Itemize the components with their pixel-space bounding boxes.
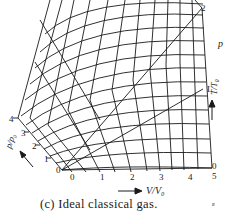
corner-label-bottom-left: 0 bbox=[56, 166, 61, 175]
v-tick-5: 5 bbox=[212, 172, 217, 181]
surface-grid bbox=[18, 0, 212, 172]
figure-caption: (c) Ideal classical gas. bbox=[40, 197, 158, 212]
temperature-axis-label: T/T₀ bbox=[209, 79, 219, 95]
v-tick-4: 4 bbox=[188, 173, 193, 182]
margin-mark: ε bbox=[212, 200, 215, 209]
v-tick-2: 2 bbox=[130, 173, 135, 182]
p-tick-3: 3 bbox=[21, 129, 26, 138]
p-tick-1: 1 bbox=[44, 155, 49, 164]
v-tick-3: 3 bbox=[159, 173, 164, 182]
pvt-surface-diagram bbox=[0, 0, 228, 217]
margin-p-mark: p bbox=[218, 38, 223, 49]
corner-label-top-right: 2 bbox=[201, 4, 206, 13]
p-tick-4: 4 bbox=[9, 115, 14, 124]
diagonal-to-L bbox=[62, 89, 203, 170]
corner-label-bottom-right: 0 bbox=[212, 162, 217, 171]
p-tick-2: 2 bbox=[32, 142, 37, 151]
volume-axis-label: V/V₀ bbox=[146, 185, 164, 196]
v-tick-1: 1 bbox=[100, 173, 105, 182]
v-tick-0: 0 bbox=[70, 173, 75, 182]
